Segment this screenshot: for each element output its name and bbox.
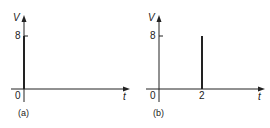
y-axis-arrow-icon xyxy=(157,15,162,22)
y-tick-label: 8 xyxy=(150,31,156,41)
panel-caption: (b) xyxy=(153,108,164,118)
x-axis-label: t xyxy=(123,92,126,102)
y-tick-label: 8 xyxy=(15,31,21,41)
origin-label: 0 xyxy=(15,91,21,101)
y-axis-label: V xyxy=(148,13,155,23)
x-axis-label: t xyxy=(258,92,261,102)
panel-b: V 8 0 2 t (b) xyxy=(135,0,270,128)
origin-label: 0 xyxy=(150,91,156,101)
panel-caption: (a) xyxy=(18,108,29,118)
y-axis-label: V xyxy=(13,13,20,23)
y-axis-arrow-icon xyxy=(22,15,27,22)
panel-a: V 8 0 t (a) xyxy=(0,0,135,128)
x-tick-label: 2 xyxy=(199,91,205,101)
